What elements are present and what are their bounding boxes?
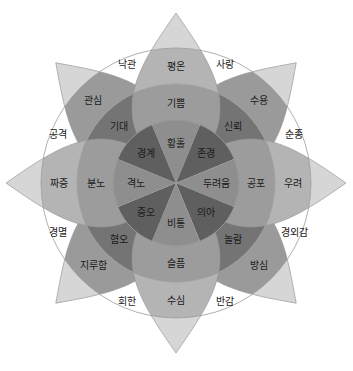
- outer-label-west: 짜증: [50, 178, 68, 189]
- outer-label-south: 수심: [167, 295, 185, 306]
- dyad-label: 경외감: [281, 226, 308, 238]
- core-label-southeast: 의아: [197, 207, 215, 218]
- outer-label-northwest: 관심: [84, 95, 102, 106]
- middle-label-northwest: 기대: [110, 121, 128, 132]
- middle-label-south: 슬픔: [167, 258, 185, 269]
- core-label-west: 격노: [127, 177, 145, 189]
- outer-label-east: 우려: [284, 178, 302, 189]
- middle-label-north: 기쁨: [167, 98, 185, 109]
- outer-label-southwest: 지루함: [80, 260, 107, 271]
- middle-label-west: 분노: [87, 178, 105, 189]
- plutchik-emotion-wheel: 황홀기쁨평온존경신뢰수용두려움공포우려의아놀람방심비통슬픔수심증오혐오지루함격노…: [0, 0, 353, 371]
- middle-label-northeast: 신뢰: [224, 121, 242, 132]
- core-label-northwest: 경계: [137, 147, 155, 159]
- outer-label-northeast: 수용: [250, 95, 268, 106]
- core-label-southwest: 증오: [137, 207, 155, 218]
- dyad-label: 순종: [285, 129, 303, 140]
- middle-label-southeast: 놀람: [224, 233, 242, 245]
- core-label-south: 비통: [167, 218, 185, 229]
- dyad-label: 사랑: [216, 59, 234, 70]
- middle-label-east: 공포: [247, 178, 265, 189]
- outer-label-north: 평온: [167, 61, 185, 72]
- core-label-east: 두려움: [203, 178, 230, 189]
- middle-label-southwest: 혐오: [110, 234, 128, 245]
- core-label-north: 황홀: [167, 137, 185, 149]
- core-label-northeast: 존경: [197, 147, 215, 159]
- dyad-label: 경멸: [49, 226, 67, 238]
- dyad-label: 반감: [216, 296, 234, 307]
- dyad-label: 공격: [49, 128, 67, 140]
- dyad-label: 낙관: [118, 59, 136, 70]
- outer-label-southeast: 방심: [250, 260, 268, 271]
- dyad-label: 회한: [118, 296, 136, 307]
